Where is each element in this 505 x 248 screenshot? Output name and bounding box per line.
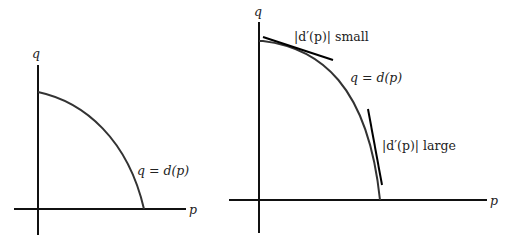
y-axis-label: q (254, 4, 262, 19)
curve-label: q = d(p) (137, 163, 189, 178)
figure-left: q p q = d(p) (14, 46, 197, 235)
tangent-small-label: |d′(p)| small (294, 29, 369, 44)
curve-label: q = d(p) (350, 70, 402, 85)
x-axis-label: p (490, 193, 498, 208)
x-axis-label: p (189, 202, 197, 217)
figure-right: q p q = d(p) |d′(p)| small |d′(p)| large (229, 4, 498, 233)
tangent-large-label: |d′(p)| large (382, 138, 456, 153)
y-axis-label: q (32, 46, 40, 61)
demand-curve (259, 41, 380, 200)
diagram-canvas: q p q = d(p) q p q = d(p) |d′(p)| small … (0, 0, 505, 248)
demand-curve (38, 92, 144, 209)
